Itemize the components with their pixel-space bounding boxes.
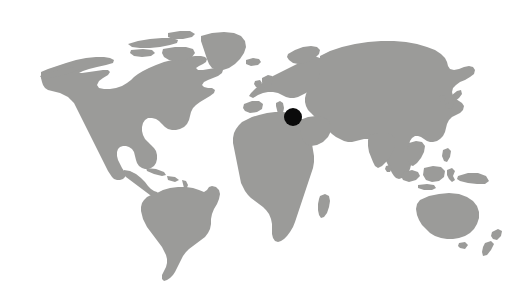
location-marker-israel[interactable] bbox=[284, 108, 302, 126]
world-locator-map: Israel Middle East / Levant equirectangu… bbox=[0, 0, 532, 298]
landmass-victoria-island bbox=[130, 49, 155, 57]
world-map-graphic bbox=[0, 0, 532, 298]
